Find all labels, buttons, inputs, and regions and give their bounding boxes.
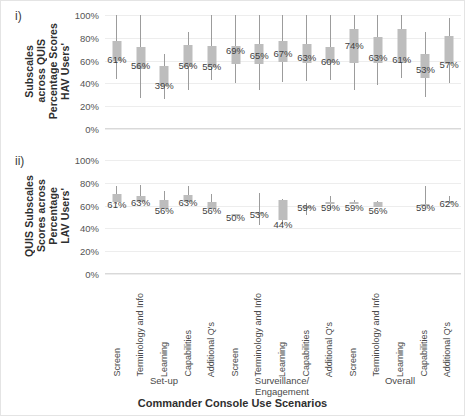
box-plot-item[interactable]: 61%	[105, 160, 129, 274]
y-axis-tick-label: 0%	[85, 124, 99, 135]
box-value-label: 59%	[321, 202, 340, 213]
box-plot-item[interactable]: 50%	[224, 160, 248, 274]
box-value-label: 39%	[155, 80, 174, 91]
box-value-label: 61%	[107, 54, 126, 65]
x-axis-category-label: Learning	[395, 342, 405, 377]
x-axis-category-label: Screen	[112, 348, 122, 377]
y-axis-title-line: Percentage Scores	[48, 23, 59, 119]
y-axis-tick-label: 40%	[80, 223, 99, 234]
gridline	[105, 129, 461, 130]
box-plot-item[interactable]: 44%	[271, 160, 295, 274]
box-plot-item[interactable]: 61%	[105, 15, 129, 129]
box-plot-item[interactable]: 59%	[342, 160, 366, 274]
box-plot-item[interactable]: 74%	[342, 15, 366, 129]
box-plot-item[interactable]: 56%	[366, 160, 390, 274]
box-value-label: 56%	[202, 205, 221, 216]
x-axis-category-label: Learning	[277, 342, 287, 377]
box-value-label: 74%	[345, 40, 364, 51]
y-axis-tick-label: 40%	[80, 78, 99, 89]
y-axis-title-line: Scores across	[36, 179, 47, 252]
box-value-label: 50%	[226, 212, 245, 223]
box-plot-item[interactable]: 57%	[437, 15, 461, 129]
y-axis-tick-label: 100%	[75, 155, 99, 166]
x-axis-group-label: Surveillance/ Engagement	[237, 376, 327, 397]
box-value-label: 63%	[131, 197, 150, 208]
y-axis-ticks-hav: 100%80%60%40%20%0%	[61, 1, 101, 141]
box-plot-item[interactable]: 56%	[129, 15, 153, 129]
box-value-label: 62%	[440, 198, 459, 209]
y-axis-tick-label: 80%	[80, 177, 99, 188]
box-value-label: 63%	[179, 197, 198, 208]
x-axis-category-labels: ScreenTerminology and InfoLearningCapabi…	[105, 291, 459, 377]
y-axis-tick-label: 0%	[85, 269, 99, 280]
box-value-label: 65%	[250, 50, 269, 61]
y-axis-ticks-lav: 100%80%60%40%20%0%	[61, 146, 101, 286]
box-value-label: 59%	[416, 202, 435, 213]
box-plot-item[interactable]: 56%	[200, 160, 224, 274]
box-plot-item[interactable]: 53%	[247, 160, 271, 274]
box-plot-item[interactable]: 69%	[224, 15, 248, 129]
y-axis-title-line: Percentage	[48, 187, 59, 245]
box-value-label: 67%	[273, 48, 292, 59]
box-value-label: 61%	[392, 54, 411, 65]
gridline	[105, 274, 461, 275]
x-axis-category-label: Capabilities	[183, 330, 193, 377]
box-plot-item[interactable]: 39%	[152, 15, 176, 129]
y-axis-title-line: QUIS Subscales	[24, 175, 35, 257]
box-plot-item[interactable]: 63%	[129, 160, 153, 274]
x-axis-category-label: Screen	[348, 348, 358, 377]
y-axis-tick-label: 80%	[80, 32, 99, 43]
box-plot-item[interactable]: 59%	[414, 160, 438, 274]
box-value-label: 55%	[202, 61, 221, 72]
box-plot-item[interactable]: 56%	[152, 160, 176, 274]
box-value-label: 56%	[179, 60, 198, 71]
x-axis-category-label: Capabilities	[419, 330, 429, 377]
x-axis-category-label: Additional Q's	[442, 322, 452, 377]
panel-hav-users: i) HAV Users' Percentage Scores across Q…	[1, 1, 465, 146]
box-plot-item[interactable]: 65%	[247, 15, 271, 129]
x-axis-category-label: Additional Q's	[324, 322, 334, 377]
box-value-label: 56%	[155, 205, 174, 216]
box-value-label: 63%	[297, 52, 316, 63]
plot-area-hav: 61%56%39%56%55%69%65%67%63%60%74%63%61%5…	[105, 15, 461, 129]
box-value-label: 56%	[131, 60, 150, 71]
x-axis-category-label: Learning	[159, 342, 169, 377]
box-value-label: 53%	[250, 209, 269, 220]
box-plot-item[interactable]: 53%	[414, 15, 438, 129]
box-plot-item[interactable]	[390, 160, 414, 274]
box-plot-item[interactable]: 61%	[390, 15, 414, 129]
box-plot-item[interactable]: 63%	[176, 160, 200, 274]
box-plot-item[interactable]: 62%	[437, 160, 461, 274]
figure-container: i) HAV Users' Percentage Scores across Q…	[0, 0, 465, 416]
y-axis-tick-label: 20%	[80, 101, 99, 112]
x-axis-category-label: Additional Q's	[206, 322, 216, 377]
x-axis-category-label: Terminology and Info	[253, 293, 263, 377]
box-plot-item[interactable]: 55%	[200, 15, 224, 129]
box-value-label: 59%	[297, 202, 316, 213]
x-axis-category-label: Terminology and Info	[371, 293, 381, 377]
y-axis-title-line: across QUIS	[36, 39, 47, 103]
x-axis-group-label: Set-up	[119, 376, 209, 387]
box-value-label: 56%	[368, 205, 387, 216]
box-plot-item[interactable]: 59%	[319, 160, 343, 274]
y-axis-tick-label: 60%	[80, 55, 99, 66]
box-plot-item[interactable]: 63%	[295, 15, 319, 129]
box-value-label: 44%	[273, 219, 292, 230]
box-value-label: 59%	[345, 202, 364, 213]
y-axis-tick-label: 100%	[75, 10, 99, 21]
box-plot-item[interactable]: 56%	[176, 15, 200, 129]
box-plot-item[interactable]: 59%	[295, 160, 319, 274]
x-axis-category-label: Terminology and Info	[135, 293, 145, 377]
x-axis-title: Commander Console Use Scenarios	[1, 397, 464, 409]
box-plot-item[interactable]: 63%	[366, 15, 390, 129]
box-value-label: 63%	[368, 52, 387, 63]
box-value-label: 69%	[226, 45, 245, 56]
y-axis-title-line: Subscales	[24, 45, 35, 98]
y-axis-tick-label: 20%	[80, 246, 99, 257]
box-plot-item[interactable]: 60%	[319, 15, 343, 129]
box-plot-item[interactable]: 67%	[271, 15, 295, 129]
x-axis-group-label: Overall	[355, 376, 445, 387]
x-axis-category-label: Capabilities	[301, 330, 311, 377]
box-body	[278, 200, 287, 221]
box-value-label: 60%	[321, 56, 340, 67]
